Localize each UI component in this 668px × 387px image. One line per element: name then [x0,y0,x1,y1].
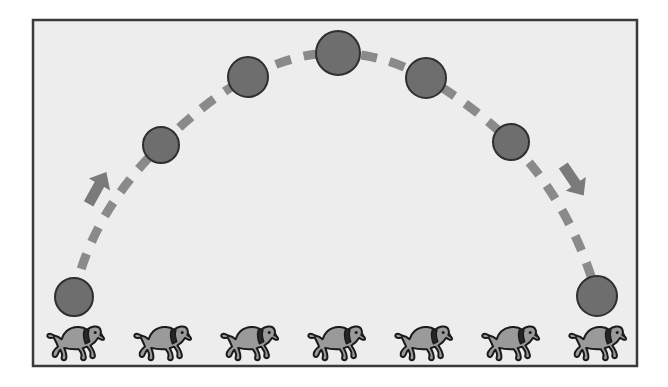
ball-1-launch [55,278,93,316]
ball-4-apex [316,31,360,75]
illustration-canvas [0,0,668,387]
ball-3-rising [228,57,268,97]
ball-5-falling [406,58,446,98]
scene-svg [0,0,668,387]
ball-2-rising [143,127,179,163]
ball-6-falling [493,124,529,160]
ball-7-landing [577,276,617,316]
